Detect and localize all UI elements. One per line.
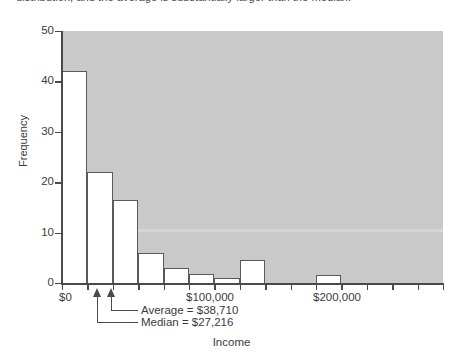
histogram-bar [316,275,341,283]
y-axis-tick [55,283,62,284]
median-leader-elbow [97,322,138,323]
x-axis-title: Income [0,336,463,348]
histogram-bar [113,200,138,283]
y-axis-tick-label: 50 [24,25,54,37]
y-axis-line [61,31,63,284]
x-axis-tick [443,284,444,290]
x-axis-tick [418,284,419,290]
x-axis-tick [214,284,215,290]
histogram-figure: 01020304050 $0$100,000$200,000 Frequency… [0,0,463,360]
x-axis-tick [392,284,393,290]
y-axis-tick [55,233,62,234]
x-axis-tick [341,284,342,290]
y-axis-title: Frequency [17,96,29,186]
median-leader-stem [97,297,98,323]
x-axis-tick-label: $0 [59,291,72,303]
y-axis-tick [55,81,62,82]
y-axis-tick [55,132,62,133]
histogram-bar [62,71,87,283]
y-axis-tick-label: 40 [24,75,54,87]
histogram-bar [87,172,112,283]
x-axis-tick [240,284,241,290]
y-axis-tick [55,182,62,183]
x-axis-tick [189,284,190,290]
average-annotation-label: Average = $38,710 [141,304,238,317]
average-leader-elbow [111,310,138,311]
median-marker-arrow-icon [93,288,101,297]
y-axis-tick-label: 0 [24,277,54,289]
x-axis-tick [265,284,266,290]
histogram-bar [164,268,189,283]
average-leader-stem [111,297,112,311]
x-axis-tick [316,284,317,290]
histogram-bar [189,274,214,283]
x-axis-tick-label: $200,000 [313,291,361,303]
x-axis-line [61,283,444,285]
x-axis-tick [62,284,63,290]
x-axis-tick [87,284,88,290]
x-axis-tick-label: $100,000 [186,291,234,303]
x-axis-tick [367,284,368,290]
x-axis-tick [138,284,139,290]
y-axis-tick-label: 10 [24,227,54,239]
x-axis-tick [164,284,165,290]
histogram-bar [240,260,265,283]
histogram-bar [138,253,163,283]
median-annotation-label: Median = $27,216 [141,316,233,329]
x-axis-tick [291,284,292,290]
average-marker-arrow-icon [107,288,115,297]
y-axis-tick [55,31,62,32]
